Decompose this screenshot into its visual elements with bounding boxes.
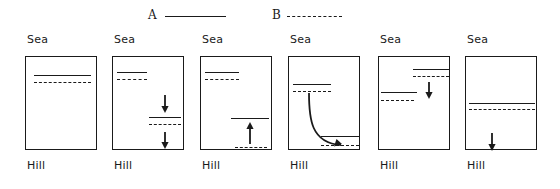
panel-6-box bbox=[465, 56, 537, 150]
panel-4-sea-label: Sea bbox=[290, 33, 311, 46]
arrow-down bbox=[488, 133, 495, 151]
figure-root: AB SeaHillSeaHillSeaHillSeaHillSeaHillSe… bbox=[0, 0, 560, 189]
panel-3-box bbox=[200, 56, 272, 150]
panel-6-sea-label: Sea bbox=[467, 33, 488, 46]
panel-3-line-b-4 bbox=[235, 147, 267, 148]
legend: AB bbox=[0, 0, 560, 32]
panel-3-line-b-2 bbox=[205, 79, 239, 80]
panel-1-sea-label: Sea bbox=[27, 33, 48, 46]
panel-6: SeaHill bbox=[465, 33, 539, 181]
panel-5-hill-label: Hill bbox=[380, 159, 398, 172]
arrow-down bbox=[425, 82, 432, 99]
panel-1-hill-label: Hill bbox=[27, 159, 45, 172]
legend-label-a: A bbox=[148, 6, 157, 24]
panel-4-hill-label: Hill bbox=[290, 159, 308, 172]
arrow-down bbox=[161, 95, 168, 113]
arrow-up bbox=[246, 122, 253, 144]
panel-5-arrows bbox=[379, 57, 451, 151]
panel-4-line-a-1 bbox=[293, 84, 331, 85]
panel-5-line-a-3 bbox=[381, 92, 417, 93]
panel-2-hill-label: Hill bbox=[114, 159, 132, 172]
panel-1-line-b-2 bbox=[34, 82, 91, 83]
panel-6-hill-label: Hill bbox=[467, 159, 485, 172]
panel-1-box bbox=[25, 56, 97, 150]
panel-5-line-a-1 bbox=[413, 69, 449, 70]
panel-3-line-a-1 bbox=[205, 72, 239, 73]
panel-6-line-a-1 bbox=[469, 103, 535, 104]
legend-line-solid bbox=[165, 16, 226, 17]
panel-4-line-b-2 bbox=[293, 91, 331, 92]
panel-3: SeaHill bbox=[200, 33, 274, 181]
panel-1: SeaHill bbox=[25, 33, 99, 181]
panel-5: SeaHill bbox=[378, 33, 452, 181]
panel-2-line-a-3 bbox=[149, 117, 181, 118]
panel-2-line-a-1 bbox=[117, 72, 147, 73]
panel-4: SeaHill bbox=[288, 33, 362, 181]
legend-line-dashed bbox=[287, 16, 342, 17]
panel-4-line-b-4 bbox=[321, 145, 359, 146]
panel-2-sea-label: Sea bbox=[114, 33, 135, 46]
panel-3-line-a-3 bbox=[231, 118, 269, 119]
panel-2-box bbox=[112, 56, 184, 150]
panel-2-line-b-4 bbox=[149, 124, 181, 125]
panel-2-line-b-2 bbox=[117, 79, 147, 80]
panel-5-sea-label: Sea bbox=[380, 33, 401, 46]
panel-5-line-b-4 bbox=[381, 100, 414, 101]
panel-5-line-b-2 bbox=[413, 76, 449, 77]
panel-4-box bbox=[288, 56, 360, 150]
panel-2: SeaHill bbox=[112, 33, 186, 181]
panel-3-hill-label: Hill bbox=[202, 159, 220, 172]
arrow-down-right bbox=[309, 93, 342, 147]
panel-3-sea-label: Sea bbox=[202, 33, 223, 46]
panel-1-line-a-1 bbox=[34, 75, 91, 76]
legend-label-b: B bbox=[272, 6, 281, 24]
panel-5-box bbox=[378, 56, 450, 150]
panel-6-line-b-2 bbox=[469, 109, 535, 110]
panel-6-arrows bbox=[466, 57, 538, 151]
arrow-down bbox=[161, 132, 168, 149]
panel-4-line-a-3 bbox=[321, 136, 359, 137]
